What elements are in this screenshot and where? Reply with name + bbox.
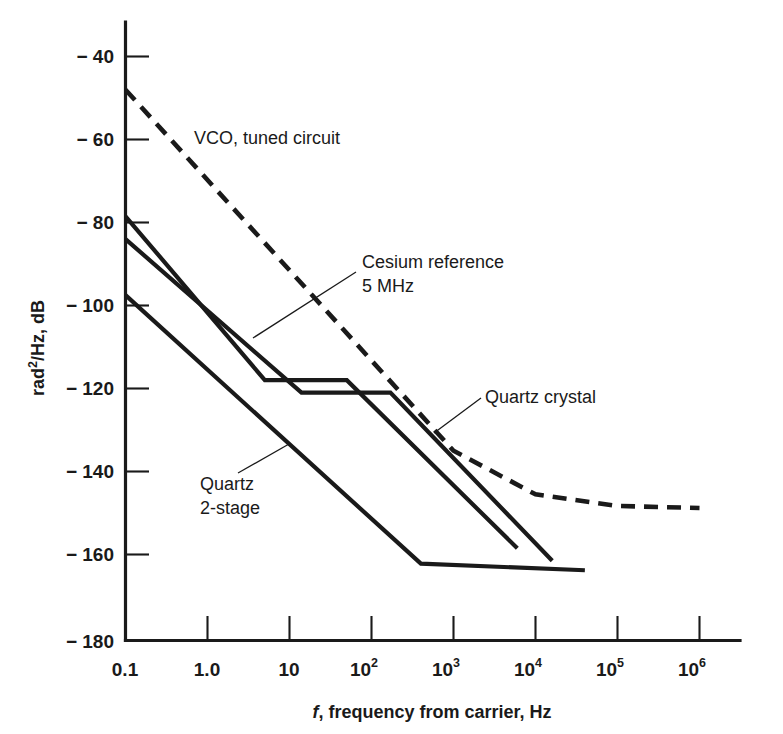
y-axis-title: rad2/Hz, dB: [26, 300, 48, 396]
x-tick-label-5-base: 10: [514, 659, 535, 680]
x-axis-tick-labels: 0.1 1.0 10 102 103 104 105 106: [112, 656, 706, 680]
x-tick-label-7-exp: 6: [699, 656, 706, 670]
annotation-quartz-crystal-label: Quartz crystal: [485, 387, 596, 407]
x-tick-label-5: 104: [514, 656, 542, 680]
x-tick-label-7: 106: [678, 656, 706, 680]
annotation-cesium-label-line2: 5 MHz: [362, 276, 414, 296]
annotation-quartz-2stage-label-line1: Quartz: [200, 474, 254, 494]
x-tick-label-6-exp: 5: [617, 656, 624, 670]
y-axis-title-main: rad: [28, 368, 48, 396]
annotation-leaders: [238, 272, 481, 473]
series-quartz-2-stage: [126, 295, 585, 570]
x-tick-label-3-exp: 2: [371, 656, 378, 670]
x-axis-ticks: [208, 616, 700, 640]
x-tick-label-6-base: 10: [596, 659, 617, 680]
y-tick-label-4: − 120: [66, 378, 114, 399]
x-tick-label-1: 1.0: [194, 659, 220, 680]
phase-noise-chart: − 40 − 60 − 80 − 100 − 120 − 140 − 160 −…: [0, 0, 783, 734]
axis-lines: [126, 22, 741, 641]
x-tick-label-4-base: 10: [432, 659, 453, 680]
annotation-quartz-2stage-label-line2: 2-stage: [200, 498, 260, 518]
x-tick-label-3: 102: [350, 656, 378, 680]
x-tick-label-7-base: 10: [678, 659, 699, 680]
x-tick-label-4: 103: [432, 656, 460, 680]
x-axis-title-rest: , frequency from carrier, Hz: [318, 702, 551, 722]
x-axis-title: f, frequency from carrier, Hz: [312, 702, 551, 722]
x-tick-label-5-exp: 4: [535, 656, 542, 670]
annotation-cesium-label-line1: Cesium reference: [362, 252, 504, 272]
y-axis-title-rest: /Hz, dB: [28, 300, 48, 361]
x-tick-label-4-exp: 3: [453, 656, 460, 670]
y-tick-label-5: − 140: [66, 461, 114, 482]
x-tick-label-6: 105: [596, 656, 624, 680]
cesium-leader-line: [253, 272, 356, 338]
x-tick-label-3-base: 10: [350, 659, 371, 680]
x-tick-label-2: 10: [278, 659, 299, 680]
y-tick-label-0: − 40: [76, 46, 114, 67]
y-axis-tick-labels: − 40 − 60 − 80 − 100 − 120 − 140 − 160 −…: [66, 46, 114, 652]
y-tick-label-2: − 80: [76, 212, 114, 233]
quartz-2-stage-leader-line: [238, 444, 289, 473]
y-tick-label-7: − 180: [66, 631, 114, 652]
y-tick-label-1: − 60: [76, 129, 114, 150]
y-tick-label-6: − 160: [66, 544, 114, 565]
quartz-crystal-leader-line: [434, 398, 481, 433]
svg-text:rad2/Hz, dB: rad2/Hz, dB: [26, 300, 48, 396]
y-tick-label-3: − 100: [66, 295, 114, 316]
x-tick-label-0: 0.1: [112, 659, 139, 680]
annotation-vco-label: VCO, tuned circuit: [194, 128, 340, 148]
y-axis-title-sup: 2: [26, 361, 40, 368]
annotation-labels: VCO, tuned circuit Cesium reference 5 MH…: [194, 128, 596, 518]
chart-container: − 40 − 60 − 80 − 100 − 120 − 140 − 160 −…: [0, 0, 783, 734]
